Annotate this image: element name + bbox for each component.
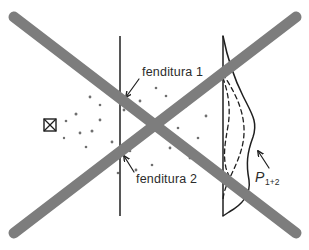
electron-dot xyxy=(169,147,172,150)
electron-dot xyxy=(155,87,158,90)
electron-dot xyxy=(85,146,88,149)
electron-dot xyxy=(139,100,142,103)
electron-dot xyxy=(165,95,168,98)
electron-dot xyxy=(117,172,120,175)
electron-dot xyxy=(75,113,78,116)
electron-dot xyxy=(65,120,68,123)
electron-dot xyxy=(91,130,94,133)
electron-dot xyxy=(123,109,126,112)
label-probability-subscript: 1+2 xyxy=(265,177,280,187)
label-slit-2: fenditura 2 xyxy=(136,172,197,186)
electron-dot xyxy=(177,127,180,130)
electron-dot xyxy=(99,119,102,122)
electron-dot xyxy=(99,104,102,107)
label-slit-1: fenditura 1 xyxy=(142,65,203,79)
electron-dot xyxy=(63,137,65,139)
label-probability-symbol: P xyxy=(255,169,265,185)
double-slit-diagram: fenditura 1 fenditura 2 P 1+2 xyxy=(0,0,309,250)
electron-dot xyxy=(135,169,138,172)
electron-dot xyxy=(89,96,92,99)
figure-canvas: fenditura 1 fenditura 2 P 1+2 xyxy=(0,0,309,250)
electron-dot xyxy=(197,137,200,140)
electron-dot xyxy=(111,141,114,144)
electron-dot xyxy=(205,115,208,118)
electron-dot xyxy=(151,164,154,167)
electron-dot xyxy=(79,132,82,135)
